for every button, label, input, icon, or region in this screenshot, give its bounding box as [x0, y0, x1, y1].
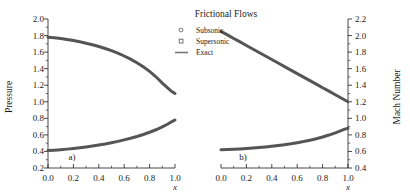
panel-a-x-axis-title: x — [172, 182, 177, 192]
x-tick-label: 0.8 — [317, 173, 329, 183]
y-tick-label: 2.0 — [355, 31, 367, 41]
x-tick-label: 0.0 — [215, 173, 227, 183]
y-tick-label: 0.4 — [33, 146, 45, 156]
y-tick-label: 1.8 — [33, 31, 45, 41]
y-tick-label: 0.8 — [355, 130, 367, 140]
legend-title: Frictional Flows — [195, 9, 258, 19]
chart-canvas: 0.20.40.60.81.01.21.41.61.82.00.00.20.40… — [0, 0, 410, 195]
y-tick-label: 0.6 — [355, 146, 367, 156]
y-tick-label: 1.0 — [355, 113, 367, 123]
panel-a-label: a) — [69, 152, 76, 162]
y-tick-label: 0.6 — [33, 130, 45, 140]
x-tick-label: 0.2 — [241, 173, 252, 183]
panel-b-label: b) — [239, 152, 247, 162]
y-tick-label: 1.2 — [33, 80, 44, 90]
x-tick-label: 0.8 — [144, 173, 156, 183]
y-tick-label: 1.8 — [355, 47, 367, 57]
x-tick-label: 0.6 — [119, 173, 131, 183]
legend-label-supersonic: Supersonic — [196, 37, 230, 46]
legend-label-exact: Exact — [196, 48, 214, 57]
x-tick-label: 0.4 — [93, 173, 105, 183]
y-tick-label: 1.0 — [33, 97, 45, 107]
y-tick-label: 0.2 — [33, 163, 44, 173]
y-tick-label: 2.2 — [355, 14, 366, 24]
legend-label-subsonic: Subsonic — [196, 26, 224, 35]
panel-b-x-axis-title: x — [345, 182, 350, 192]
y-tick-label: 2.0 — [33, 14, 45, 24]
panel-a-y-axis-title: Pressure — [4, 81, 14, 113]
y-tick-label: 1.2 — [355, 97, 366, 107]
frictional-flows-figure: 0.20.40.60.81.01.21.41.61.82.00.00.20.40… — [0, 0, 410, 195]
x-tick-label: 0.4 — [266, 173, 278, 183]
x-tick-label: 0.0 — [42, 173, 54, 183]
panel-b-y-axis-title: Mach Number — [392, 69, 402, 125]
y-tick-label: 1.6 — [355, 64, 367, 74]
y-tick-label: 0.8 — [33, 113, 45, 123]
y-tick-label: 1.4 — [33, 64, 45, 74]
y-tick-label: 0.4 — [355, 163, 367, 173]
x-tick-label: 0.6 — [292, 173, 304, 183]
y-tick-label: 1.6 — [33, 47, 45, 57]
y-tick-label: 1.4 — [355, 80, 367, 90]
x-tick-label: 0.2 — [68, 173, 79, 183]
